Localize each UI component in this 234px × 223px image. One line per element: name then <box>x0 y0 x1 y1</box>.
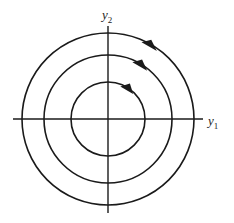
y2-axis-label: y2 <box>102 8 112 25</box>
phase-plane <box>0 0 234 223</box>
y1-axis-label: y1 <box>208 114 218 131</box>
y1-label-sub: 1 <box>214 121 219 131</box>
y2-label-sub: 2 <box>108 15 113 25</box>
